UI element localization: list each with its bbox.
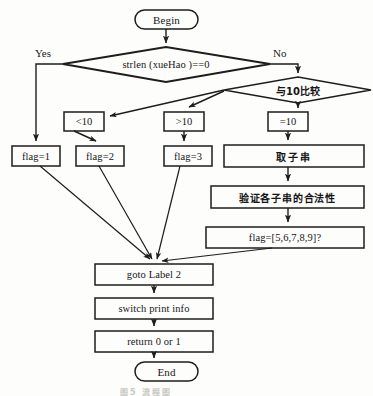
edge-lt10-to-flag2 (74, 131, 96, 141)
compare10-decision-label: 与10比较 (258, 82, 338, 98)
flagset-box-label: flag=[5,6,7,8,9]? (206, 227, 364, 248)
substring-box-label: 取子串 (224, 145, 364, 167)
goto-box-label: goto Label 2 (95, 264, 213, 285)
lt10-box-label: <10 (64, 112, 104, 131)
edge-flagset-to-goto (162, 248, 272, 261)
flowchart-figure: Begin End strlen (xueHao )==0 与10比较 Yes … (0, 0, 373, 396)
return-box-label: return 0 or 1 (95, 331, 213, 352)
validate-box-label: 验证各子串的合法性 (211, 186, 364, 208)
begin-terminator-label: Begin (135, 10, 198, 29)
switch-box-label: switch print info (95, 298, 213, 319)
end-terminator-label: End (135, 362, 198, 381)
edge-flag3-to-goto (157, 166, 180, 259)
edge-flag1-to-goto (40, 166, 150, 259)
flag2-box-label: flag=2 (76, 146, 124, 166)
edge-flag2-to-goto (99, 166, 152, 259)
flag1-box-label: flag=1 (12, 146, 60, 166)
flag3-box-label: flag=3 (164, 146, 212, 166)
gt10-box-label: >10 (164, 112, 204, 131)
strlen-decision-label: strlen (xueHao )==0 (96, 55, 236, 73)
edge-yes-to-flag1 (36, 64, 63, 141)
edge-no-to-compare10 (270, 64, 298, 73)
figure-caption: 图5 流程图 (120, 386, 172, 396)
eq10-box-label: =10 (268, 112, 308, 131)
